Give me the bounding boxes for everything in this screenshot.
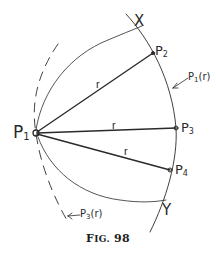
label-curve-p3-r-arg: (r) [91, 208, 103, 219]
radius-line-p3 [37, 128, 176, 133]
label-p4-base: P [175, 162, 183, 177]
label-curve-p1-r-arg: (r) [199, 71, 211, 82]
label-radius-p4: r [124, 146, 128, 157]
caption-prefix: F [86, 232, 94, 245]
curve-upper-through-x [36, 26, 142, 130]
curve-lower-through-y [38, 137, 166, 202]
label-intersection-x: X [134, 14, 144, 29]
label-p2: P2 [155, 44, 168, 59]
label-curve-p1-r: P1(r) [188, 72, 210, 84]
label-p1: P1 [13, 124, 30, 142]
figure-caption: FIG. 98 [0, 232, 216, 245]
label-p2-base: P [155, 43, 163, 58]
radius-line-p2 [37, 53, 153, 132]
label-radius-p2: r [96, 79, 100, 90]
arc-p1-r [126, 14, 176, 232]
label-p4-sub: 4 [183, 169, 188, 178]
label-p3-sub: 3 [189, 127, 194, 136]
label-intersection-y: Y [162, 203, 171, 218]
arrow-p1-r [173, 78, 188, 88]
label-p3: P3 [181, 121, 194, 136]
label-curve-p3-r: P3(r) [80, 209, 102, 221]
caption-smallcaps: IG. [94, 234, 110, 244]
label-radius-p3: r [112, 120, 116, 131]
label-p3-base: P [181, 120, 189, 135]
label-p1-base: P [13, 122, 23, 142]
caption-number: 98 [114, 232, 130, 245]
radius-line-p4 [37, 134, 170, 170]
label-p1-sub: 1 [23, 131, 29, 142]
label-p4: P4 [175, 163, 188, 178]
label-p2-sub: 2 [163, 50, 168, 59]
